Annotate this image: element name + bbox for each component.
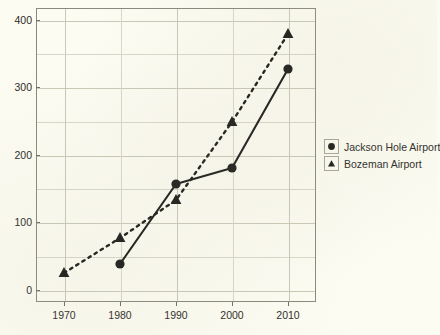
y-tick-mark-200: [36, 155, 40, 156]
triangle-marker-icon: [324, 156, 339, 171]
legend-label-bozeman-airport: Bozeman Airport: [344, 158, 422, 170]
data-point-bozeman-2000: [227, 116, 238, 126]
x-tick-mark-1970: [64, 302, 65, 306]
chart-legend: Jackson Hole Airport Bozeman Airport: [324, 139, 440, 171]
x-tick-label-1980: 1980: [98, 310, 142, 321]
y-tick-label-400: 400: [2, 15, 32, 25]
legend-label-jackson-hole-airport: Jackson Hole Airport: [344, 141, 440, 153]
y-tick-label-200: 200: [2, 150, 32, 160]
y-tick-mark-400: [36, 20, 40, 21]
x-tick-mark-1990: [176, 302, 177, 306]
data-point-jackson-hole-1980: [115, 259, 124, 268]
data-point-jackson-hole-1990: [171, 179, 180, 188]
y-tick-label-300: 300: [2, 82, 32, 92]
circle-marker-icon: [324, 139, 339, 154]
data-point-bozeman-1970: [59, 267, 70, 277]
x-tick-mark-1980: [120, 302, 121, 306]
y-tick-mark-0: [36, 290, 40, 291]
y-axis: 400 300 200 100 0: [0, 0, 32, 335]
x-tick-mark-2000: [232, 302, 233, 306]
x-tick-label-2000: 2000: [210, 310, 254, 321]
x-tick-mark-2010: [288, 302, 289, 306]
y-tick-mark-100: [36, 222, 40, 223]
x-tick-label-1970: 1970: [42, 310, 86, 321]
x-tick-label-2010: 2010: [266, 310, 310, 321]
legend-item-jackson-hole-airport[interactable]: Jackson Hole Airport: [324, 139, 440, 154]
data-point-bozeman-2010: [283, 28, 294, 38]
x-tick-label-1990: 1990: [154, 310, 198, 321]
data-point-jackson-hole-2000: [227, 163, 236, 172]
y-tick-label-100: 100: [2, 217, 32, 227]
series-layer: [36, 8, 316, 302]
series-line-jackson-hole-airport: [120, 69, 288, 264]
legend-item-bozeman-airport[interactable]: Bozeman Airport: [324, 156, 440, 171]
y-tick-mark-300: [36, 87, 40, 88]
y-tick-label-0: 0: [2, 285, 32, 295]
data-point-jackson-hole-2010: [283, 64, 292, 73]
data-point-bozeman-1980: [115, 232, 126, 242]
series-line-bozeman-airport: [64, 34, 288, 273]
